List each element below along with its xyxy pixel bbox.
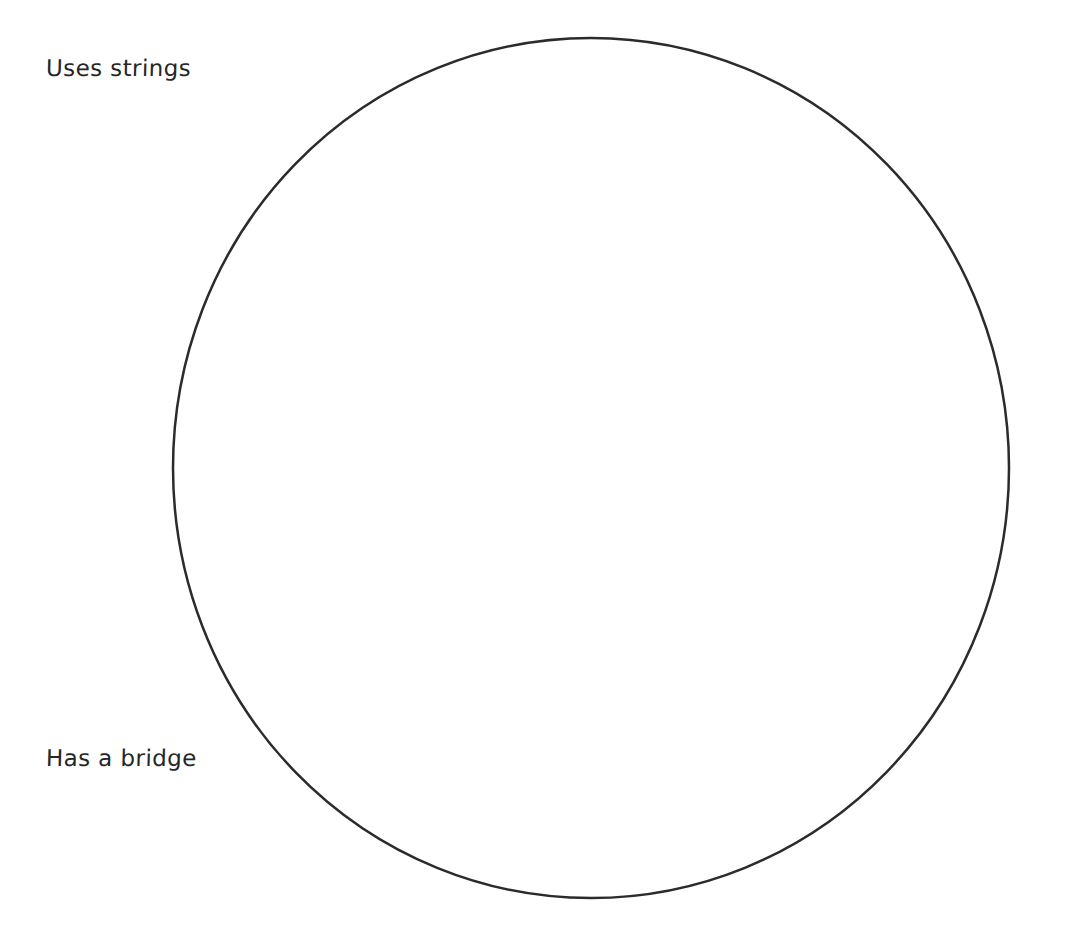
venn-circle-set[interactable]	[173, 38, 1009, 898]
venn-diagram-svg	[0, 0, 1092, 931]
set-label-uses-strings: Uses strings	[46, 57, 192, 80]
diagram-canvas: Uses strings Has a bridge	[0, 0, 1092, 931]
set-label-has-a-bridge: Has a bridge	[46, 747, 197, 770]
